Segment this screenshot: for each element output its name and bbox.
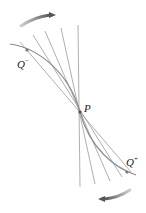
point-Q-minus	[25, 48, 28, 51]
point-Q-plus	[125, 170, 128, 173]
label-P: P	[84, 103, 91, 114]
secant-line-4	[33, 35, 122, 177]
label-Q-minus-text: Q	[17, 58, 25, 70]
label-Q-minus-sup: −	[25, 57, 29, 65]
label-Q-plus-text: Q	[126, 156, 134, 168]
label-Q-minus: Q−	[17, 58, 29, 70]
label-P-text: P	[84, 102, 91, 114]
secant-lines	[20, 25, 131, 187]
point-P	[78, 110, 81, 113]
rotation-arrow-top-icon	[21, 12, 56, 26]
label-Q-plus: Q+	[126, 156, 138, 168]
label-Q-plus-sup: +	[134, 155, 138, 163]
rotation-arrow-bottom-icon	[98, 190, 130, 202]
diagram-canvas	[0, 0, 146, 213]
secant-line-5	[20, 42, 131, 172]
